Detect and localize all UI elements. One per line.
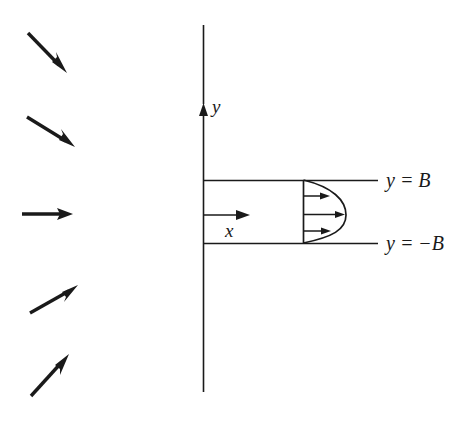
inflow-arrow-2 <box>27 117 75 147</box>
lower-wall-label: y = −B <box>384 232 444 255</box>
y-axis-arrow-head <box>199 103 208 116</box>
x-axis-label: x <box>224 220 234 241</box>
inflow-arrow-4-head <box>62 285 78 302</box>
diagram-canvas: y x y = B y = −B <box>0 0 463 422</box>
inflow-arrow-3 <box>22 208 73 220</box>
inflow-arrow-4 <box>30 285 78 313</box>
x-axis-arrow-head <box>236 210 250 220</box>
profile-arrow-lower <box>304 227 331 234</box>
upper-wall-label: y = B <box>384 169 431 192</box>
inflow-arrow-5-shaft <box>31 363 61 396</box>
profile-arrow-lower-head <box>321 227 331 234</box>
inflow-arrow-5 <box>31 354 69 396</box>
y-axis-label: y <box>210 96 221 117</box>
inflow-arrow-2-shaft <box>27 117 66 141</box>
velocity-profile-group <box>304 180 347 243</box>
x-axis-group <box>203 210 250 220</box>
inflow-arrow-2-head <box>59 129 75 147</box>
profile-arrow-upper <box>304 192 330 199</box>
inflow-arrow-4-shaft <box>30 291 69 313</box>
inflow-arrow-1-head <box>52 52 67 73</box>
flow-diagram: y x y = B y = −B <box>0 0 463 422</box>
profile-parabola <box>304 180 347 243</box>
profile-arrow-upper-head <box>320 192 330 199</box>
profile-arrow-center-head <box>335 211 345 218</box>
inflow-arrow-5-head <box>55 354 69 375</box>
profile-arrow-center <box>304 211 345 218</box>
inflow-arrow-1 <box>28 33 67 73</box>
inflow-arrow-group <box>22 33 78 396</box>
